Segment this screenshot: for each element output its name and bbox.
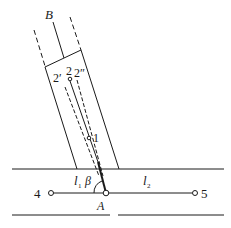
label-B: B [45,7,53,22]
point-5 [193,191,198,196]
point-1 [87,136,91,140]
label-l2-sub: 2 [147,182,151,190]
right-strip-edge [81,50,119,169]
label-2: 2 [66,64,72,78]
left-dashed-boundary [34,30,45,66]
centerline-B [53,22,64,58]
label-A: A [96,199,105,213]
diagram-canvas: B 2′ 2 2″ 1 4 5 A β l 1 l 2 [0,0,231,228]
point-4 [49,191,54,196]
line-2-to-A [70,81,98,162]
label-4: 4 [34,186,41,201]
cross-section-line [45,50,81,67]
point-A [103,190,109,196]
label-5: 5 [201,186,208,201]
label-l1-sub: 1 [78,182,82,190]
right-dashed-boundary [70,17,81,50]
label-2prime: 2′ [53,71,62,85]
beta-angle-arc [94,181,102,193]
label-1: 1 [93,131,99,145]
label-2dprime: 2″ [74,66,85,80]
line-1-to-A [98,162,106,193]
label-beta: β [84,174,91,188]
